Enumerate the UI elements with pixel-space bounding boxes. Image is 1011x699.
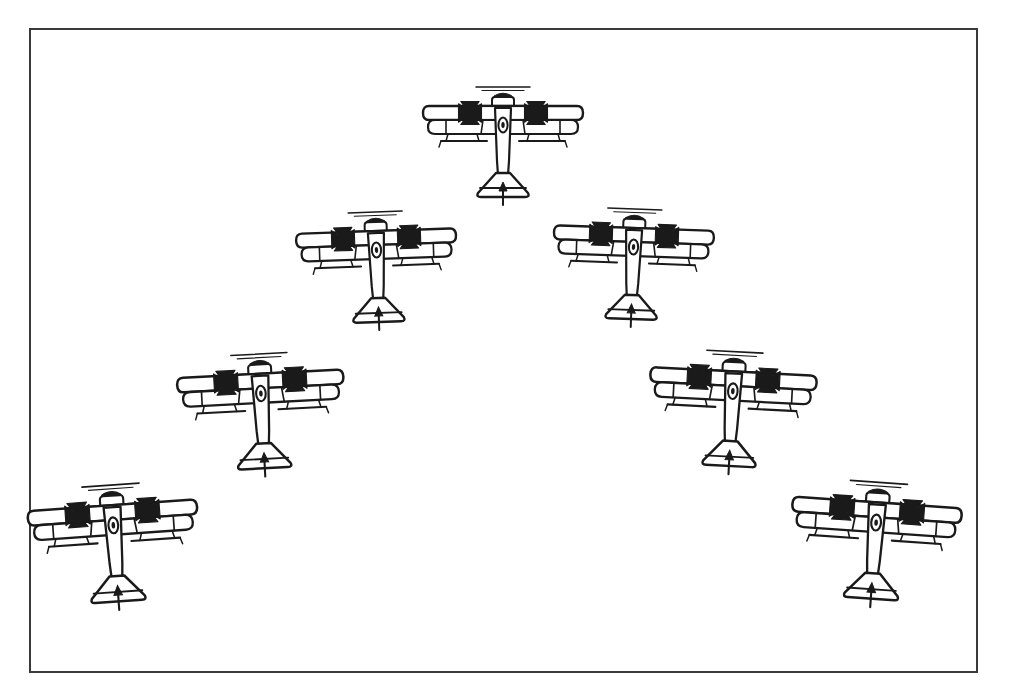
wheel-mark-right [695, 265, 697, 271]
strut-right-outer [320, 386, 321, 401]
wheel-mark-left [313, 268, 315, 274]
tail-post [118, 592, 119, 610]
wheel-mark-left [807, 535, 810, 541]
biplane-drawing [786, 464, 965, 613]
axle-left [810, 535, 859, 538]
propeller-blade-lower [614, 212, 656, 213]
tail-post [264, 459, 265, 477]
iron-cross-marking [829, 495, 855, 521]
wheel-mark-right [940, 544, 943, 550]
propeller-blade-lower [354, 215, 396, 216]
propeller-blade-lower [237, 357, 281, 359]
propeller-blade-upper [707, 351, 763, 354]
propeller-blade-lower [89, 487, 133, 490]
axle-left [197, 411, 245, 414]
axle-left [667, 405, 715, 408]
biplane-left-wing-2[interactable] [175, 337, 355, 486]
propeller-blade-upper [608, 208, 662, 210]
biplane-drawing [423, 75, 583, 205]
biplane-right-wing-3[interactable] [785, 464, 975, 622]
propeller-blade-upper [851, 480, 908, 484]
axle-left [49, 543, 98, 546]
biplane-left-wing-3[interactable] [25, 466, 215, 624]
wheel-mark-left [195, 414, 197, 420]
propeller-blade-lower [713, 355, 757, 357]
biplane-lead[interactable] [423, 75, 583, 205]
strut-right-outer [791, 389, 792, 404]
axle-left [315, 267, 361, 269]
biplane-left-wing-1[interactable] [295, 197, 459, 333]
strut-left-outer [201, 392, 202, 407]
wheel-mark-right [326, 407, 328, 413]
biplane-drawing [25, 467, 204, 616]
wheel-mark-right [180, 538, 183, 544]
biplane-drawing [551, 194, 715, 330]
tail-post [631, 310, 632, 327]
axle-right [892, 541, 941, 544]
wheel-mark-right [565, 141, 567, 147]
wheel-mark-left [665, 405, 667, 411]
wheel-mark-right [439, 264, 441, 270]
axle-right [649, 264, 695, 266]
biplane-right-wing-1[interactable] [551, 194, 715, 330]
wheel-mark-left [47, 547, 50, 553]
biplane-drawing [175, 338, 348, 482]
wheel-mark-left [439, 141, 441, 147]
axle-right [278, 407, 326, 410]
wheel-mark-right [796, 412, 798, 418]
propeller-blade-upper [231, 353, 287, 356]
propeller-blade-lower [857, 485, 901, 488]
propeller-blade-upper [82, 483, 139, 487]
tail-post [379, 313, 380, 330]
tail-post [728, 457, 729, 475]
axle-right [393, 264, 439, 266]
propeller-blade-upper [348, 211, 402, 213]
axle-right [132, 538, 181, 541]
iron-cross-marking [135, 497, 161, 523]
strut-left-outer [673, 383, 674, 398]
biplane-right-wing-2[interactable] [645, 335, 825, 484]
axle-left [571, 261, 617, 263]
iron-cross-marking [899, 499, 925, 525]
biplane-drawing [295, 197, 459, 333]
biplane-drawing [645, 335, 818, 479]
iron-cross-marking [65, 502, 91, 528]
tail-post [870, 589, 871, 607]
wheel-mark-left [569, 261, 571, 267]
cockpit-pilot [501, 122, 504, 128]
diagram-canvas [0, 0, 1011, 699]
axle-right [748, 409, 796, 412]
